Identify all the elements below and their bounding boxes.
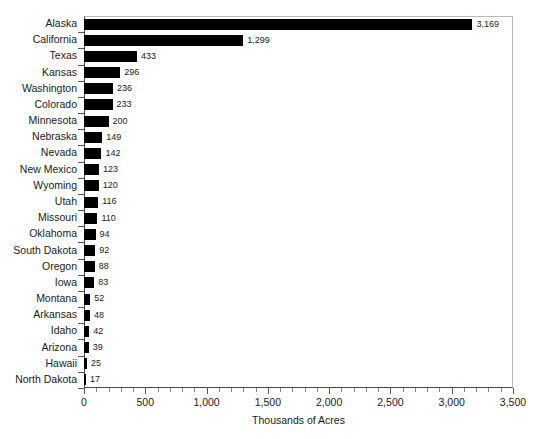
bar[interactable] [84, 51, 137, 62]
bar-value-label: 116 [102, 195, 116, 207]
bar[interactable] [84, 197, 98, 208]
bar-value-label: 120 [103, 179, 118, 191]
bar[interactable] [84, 358, 87, 369]
bar-row: 25 [84, 356, 513, 372]
bar-value-label: 52 [94, 292, 104, 304]
bar-row: 83 [84, 275, 513, 291]
bar[interactable] [84, 294, 90, 305]
bar-value-label: 3,169 [476, 18, 499, 30]
x-minor-tick [501, 388, 502, 392]
bar[interactable] [84, 19, 472, 30]
bar-row: 120 [84, 178, 513, 194]
bar[interactable] [84, 164, 99, 175]
category-label-oregon: Oregon [0, 260, 77, 273]
bar-value-label: 433 [141, 50, 156, 62]
bar-value-label: 83 [98, 276, 108, 288]
bar-row: 3,169 [84, 16, 513, 32]
x-minor-tick [427, 388, 428, 392]
bar-row: 88 [84, 259, 513, 275]
x-major-tick [452, 388, 453, 394]
x-major-tick [329, 388, 330, 394]
x-minor-tick [194, 388, 195, 392]
x-minor-tick [219, 388, 220, 392]
x-major-tick [207, 388, 208, 394]
x-minor-tick [170, 388, 171, 392]
x-minor-tick [476, 388, 477, 392]
bar-value-label: 110 [101, 212, 115, 224]
bar[interactable] [84, 326, 89, 337]
bar-value-label: 142 [105, 147, 120, 159]
bar-value-label: 92 [99, 244, 109, 256]
bar-row: 1,299 [84, 32, 513, 48]
bar-value-label: 149 [106, 131, 121, 143]
category-label-nebraska: Nebraska [0, 130, 77, 143]
category-label-wyoming: Wyoming [0, 179, 77, 192]
bar[interactable] [84, 180, 99, 191]
bar-value-label: 296 [124, 66, 139, 78]
x-minor-tick [243, 388, 244, 392]
category-label-iowa: Iowa [0, 276, 77, 289]
bar[interactable] [84, 83, 113, 94]
bar[interactable] [84, 67, 120, 78]
bar[interactable] [84, 213, 97, 224]
x-minor-tick [182, 388, 183, 392]
bar[interactable] [84, 261, 95, 272]
bar-chart: AlaskaCaliforniaTexasKansasWashingtonCol… [0, 0, 538, 439]
bar-value-label: 123 [103, 163, 118, 175]
x-major-tick [84, 388, 85, 394]
bar[interactable] [84, 342, 89, 353]
x-minor-tick [464, 388, 465, 392]
bar[interactable] [84, 229, 96, 240]
x-minor-tick [366, 388, 367, 392]
category-label-south-dakota: South Dakota [0, 244, 77, 257]
bar-row: 123 [84, 162, 513, 178]
x-minor-tick [341, 388, 342, 392]
category-label-kansas: Kansas [0, 66, 77, 79]
category-label-north-dakota: North Dakota [0, 373, 77, 386]
x-minor-tick [133, 388, 134, 392]
bar[interactable] [84, 99, 113, 110]
category-label-montana: Montana [0, 292, 77, 305]
x-minor-tick [354, 388, 355, 392]
bar-row: 233 [84, 97, 513, 113]
bar-row: 17 [84, 372, 513, 388]
x-tick-label: 1,000 [193, 396, 219, 409]
bar[interactable] [84, 35, 243, 46]
x-minor-tick [96, 388, 97, 392]
x-minor-tick [280, 388, 281, 392]
category-label-alaska: Alaska [0, 17, 77, 30]
bar[interactable] [84, 132, 102, 143]
x-minor-tick [256, 388, 257, 392]
x-minor-tick [403, 388, 404, 392]
category-label-washington: Washington [0, 82, 77, 95]
bar-value-label: 88 [99, 260, 109, 272]
category-label-nevada: Nevada [0, 146, 77, 159]
category-label-hawaii: Hawaii [0, 357, 77, 370]
x-minor-tick [415, 388, 416, 392]
bar[interactable] [84, 310, 90, 321]
x-tick-label: 3,500 [500, 396, 526, 409]
bar[interactable] [84, 245, 95, 256]
category-label-missouri: Missouri [0, 211, 77, 224]
bar-row: 142 [84, 145, 513, 161]
category-label-arkansas: Arkansas [0, 308, 77, 321]
x-minor-tick [439, 388, 440, 392]
bar-row: 94 [84, 226, 513, 242]
x-tick-label: 2,500 [377, 396, 403, 409]
category-label-colorado: Colorado [0, 98, 77, 111]
bar[interactable] [84, 148, 101, 159]
bar[interactable] [84, 277, 94, 288]
bar-value-label: 200 [113, 115, 128, 127]
x-minor-tick [305, 388, 306, 392]
x-major-tick [145, 388, 146, 394]
bar-row: 116 [84, 194, 513, 210]
x-axis-title: Thousands of Acres [84, 414, 513, 427]
category-label-minnesota: Minnesota [0, 114, 77, 127]
bar-value-label: 39 [93, 341, 103, 353]
category-label-arizona: Arizona [0, 341, 77, 354]
category-axis: AlaskaCaliforniaTexasKansasWashingtonCol… [0, 16, 77, 388]
bar[interactable] [84, 374, 86, 385]
bar[interactable] [84, 116, 109, 127]
bar-value-label: 1,299 [247, 34, 270, 46]
bar-row: 48 [84, 307, 513, 323]
